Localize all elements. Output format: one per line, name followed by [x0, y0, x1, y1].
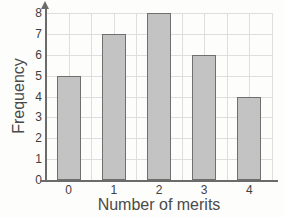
y-axis-tick-label: 1: [26, 153, 42, 165]
x-axis-tick-label: 4: [239, 183, 259, 197]
bar: [147, 13, 171, 180]
y-axis-tick-label: 2: [26, 132, 42, 144]
y-axis-tick-labels: 876543210: [26, 6, 42, 186]
x-axis-tick-label: 1: [104, 183, 124, 197]
x-axis-tick-label: 3: [194, 183, 214, 197]
y-axis-tick-label: 7: [26, 28, 42, 40]
y-axis-tick-label: 6: [26, 49, 42, 61]
x-axis-title: Number of merits: [46, 196, 272, 214]
y-axis-tick-label: 8: [26, 7, 42, 19]
vertical-gridline: [272, 13, 273, 180]
y-axis-tick-label: 5: [26, 70, 42, 82]
bar: [102, 34, 126, 180]
x-axis-tick-label: 2: [149, 183, 169, 197]
bar: [192, 55, 216, 180]
y-axis-tick-label: 4: [26, 91, 42, 103]
plot-area: [46, 13, 272, 180]
y-axis-tick-label: 3: [26, 111, 42, 123]
bar: [57, 76, 81, 180]
x-axis-tick-label: 0: [59, 183, 79, 197]
y-axis-arrow-icon: [41, 1, 49, 9]
x-axis-line: [40, 180, 278, 182]
y-axis-line: [45, 8, 47, 181]
bar-chart: Frequency 876543210 01234 Number of meri…: [0, 0, 284, 217]
bar-series: [46, 13, 272, 180]
bar: [237, 97, 261, 181]
